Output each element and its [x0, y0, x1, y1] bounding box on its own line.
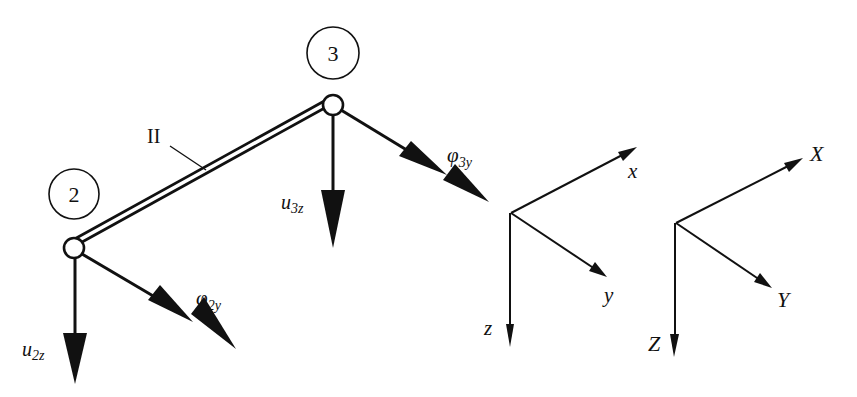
- local-x-label: x: [627, 159, 638, 183]
- element-ii: [72, 102, 329, 244]
- dof-phi3y-label: φ3y: [447, 143, 473, 170]
- global-y-label: Y: [777, 287, 792, 312]
- global-x-arrowhead: [784, 158, 803, 172]
- node-3-hinge: [323, 95, 343, 115]
- dof-u2z-arrow: [63, 257, 87, 384]
- global-y-arrowhead: [754, 273, 772, 288]
- global-z-arrowhead: [670, 334, 679, 357]
- svg-text:3: 3: [328, 41, 339, 66]
- global-z-label: Z: [648, 331, 661, 356]
- node-2-number: 2: [49, 169, 99, 219]
- dof-u3z-arrow: [321, 114, 345, 248]
- local-z-label: z: [483, 316, 492, 340]
- local-axes: [506, 147, 637, 347]
- local-y-label: y: [602, 283, 614, 307]
- global-x-label: X: [809, 141, 825, 166]
- frame-diagram: II 2 3 u2z φ2y u3z φ3y: [0, 0, 857, 397]
- dof-phi2y-label: φ2y: [196, 286, 222, 313]
- local-y-arrowhead: [589, 262, 607, 277]
- local-z-arrowhead: [506, 324, 514, 347]
- global-axes: [670, 158, 803, 357]
- element-label: II: [147, 125, 160, 147]
- svg-text:2: 2: [69, 182, 80, 207]
- dof-u2z-label: u2z: [22, 338, 45, 363]
- dof-u3z-label: u3z: [281, 191, 304, 216]
- element-label-leader: [170, 146, 206, 170]
- node-2-hinge: [64, 238, 84, 258]
- node-3-number: 3: [307, 27, 359, 79]
